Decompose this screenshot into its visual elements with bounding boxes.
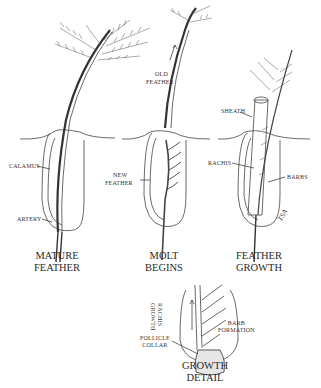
label-artery: ARTERY [17, 216, 42, 223]
label-barbs: BARBS [287, 174, 308, 181]
caption-feather-growth: FEATHER GROWTH [219, 250, 299, 274]
old-feather-shaft [165, 8, 196, 128]
leader-barbs [268, 177, 285, 182]
label-new-feather-2: FEATHER [105, 180, 133, 187]
arrow-rachis-growth [190, 300, 194, 330]
caption-mature-feather: MATURE FEATHER [17, 250, 97, 274]
label-sheath: SHEATH [221, 108, 245, 115]
label-new-feather-1: NEW [113, 172, 127, 179]
label-rachis: RACHIS [208, 160, 231, 167]
label-barb-formation: BARB FORMATION [218, 320, 255, 334]
caption-molt-begins: MOLT BEGINS [124, 250, 204, 274]
new-feather-barbs [162, 140, 181, 260]
label-follicle-collar: FOLLICLE COLLAR [140, 335, 170, 349]
label-old-feather-2: FEATHER [146, 79, 174, 86]
label-rachis-growth: RACHIS GROWTH [149, 303, 163, 331]
caption-growth-detail: GROWTH DETAIL [165, 360, 245, 384]
label-old-feather-1: OLD [155, 71, 168, 78]
label-calamus: CALAMUS [9, 163, 40, 170]
